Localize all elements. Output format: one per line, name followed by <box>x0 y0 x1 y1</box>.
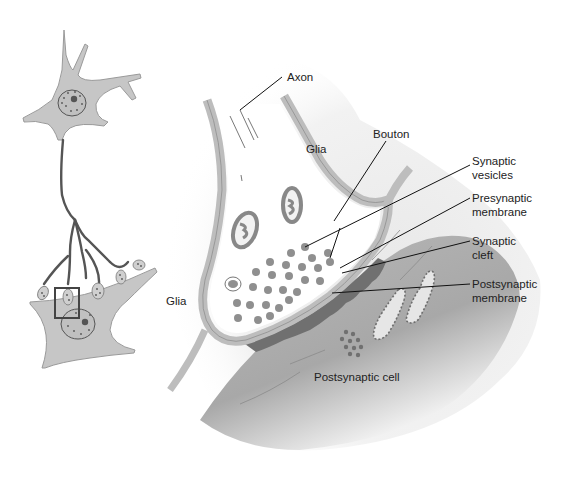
label-bouton: Bouton <box>373 128 409 141</box>
label-postsynaptic-cell: Postsynaptic cell <box>314 371 400 384</box>
label-postsynaptic-membrane: Postsynaptic membrane <box>472 277 537 305</box>
label-synaptic-cleft: Synaptic cleft <box>472 234 516 262</box>
label-presynaptic-membrane: Presynaptic membrane <box>472 191 532 219</box>
label-glia-top: Glia <box>306 143 326 156</box>
label-synaptic-vesicles: Synaptic vesicles <box>472 154 516 182</box>
synapse-diagram: Axon Glia Bouton Synaptic vesicles Presy… <box>0 0 564 483</box>
axon-branches <box>44 140 128 284</box>
label-axon: Axon <box>287 71 313 84</box>
presynaptic-neuron <box>23 30 141 140</box>
label-glia-left: Glia <box>166 295 186 308</box>
